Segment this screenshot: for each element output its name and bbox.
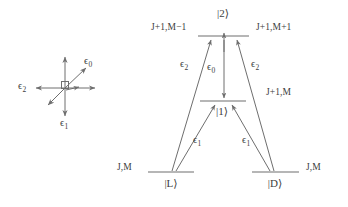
pol-arrow-diag-down-left [48,88,65,105]
ket-label-D: |D⟩ [268,178,282,189]
transition-label-L-to-2: ϵ2 [180,59,188,70]
transition-L-to-2 [172,40,211,171]
transition-label-D-to-1: ϵ1 [242,135,250,146]
ket-label-L: |L⟩ [164,178,177,189]
term-label-D-right: J,M [306,163,321,173]
term-label-1-right: J+1,M [266,88,291,98]
pol-label-eps0: ϵ0 [84,56,92,67]
term-label-L-left: J,M [117,163,132,173]
term-label-2-left: J+1,M−1 [151,23,186,33]
pol-label-eps2: ϵ2 [18,81,26,92]
transition-label-L-to-1: ϵ1 [193,135,201,146]
term-label-2-right: J+1,M+1 [256,23,291,33]
pol-label-eps1: ϵ1 [60,118,68,129]
transition-label-2-to-1: ϵ0 [207,62,215,73]
ket-label-2: |2⟩ [217,8,229,19]
energy-level-figure: ϵ0 ϵ1 ϵ2 |2⟩ J+1,M−1 J+1,M+1 |1⟩ J+1,M |… [0,0,348,207]
transition-label-D-to-2: ϵ2 [251,59,259,70]
ket-label-1: |1⟩ [216,106,228,117]
